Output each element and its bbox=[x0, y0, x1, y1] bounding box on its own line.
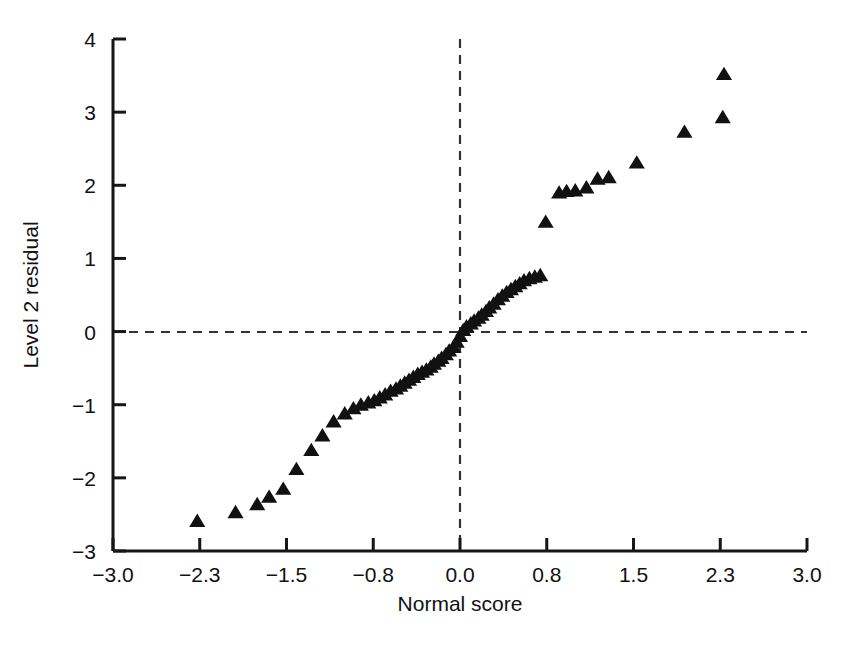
qq-plot-figure: −3.0−2.3−1.5−0.80.00.81.52.33.0 −3−2−101… bbox=[0, 0, 853, 650]
y-tick-label-3: 0 bbox=[84, 321, 96, 344]
x-axis-title: Normal score bbox=[398, 592, 523, 615]
x-tick-label-1: −2.3 bbox=[179, 563, 220, 586]
x-tick-label-0: −3.0 bbox=[92, 563, 133, 586]
y-tick-label-6: 3 bbox=[84, 101, 96, 124]
x-tick-label-8: 3.0 bbox=[792, 563, 821, 586]
y-tick-label-1: −2 bbox=[72, 467, 96, 490]
y-tick-label-5: 2 bbox=[84, 174, 96, 197]
y-tick-label-2: −1 bbox=[72, 394, 96, 417]
normal-probability-plot: −3.0−2.3−1.5−0.80.00.81.52.33.0 −3−2−101… bbox=[0, 0, 853, 650]
x-tick-label-3: −0.8 bbox=[353, 563, 394, 586]
x-tick-label-5: 0.8 bbox=[532, 563, 561, 586]
x-tick-label-7: 2.3 bbox=[706, 563, 735, 586]
x-tick-label-2: −1.5 bbox=[266, 563, 307, 586]
x-tick-label-4: 0.0 bbox=[445, 563, 474, 586]
x-axis-tick-labels: −3.0−2.3−1.5−0.80.00.81.52.33.0 bbox=[92, 563, 821, 586]
x-tick-label-6: 1.5 bbox=[619, 563, 648, 586]
y-tick-label-4: 1 bbox=[84, 247, 96, 270]
y-axis-title: Level 2 residual bbox=[19, 221, 42, 368]
y-tick-label-7: 4 bbox=[84, 28, 96, 51]
y-tick-label-0: −3 bbox=[72, 540, 96, 563]
